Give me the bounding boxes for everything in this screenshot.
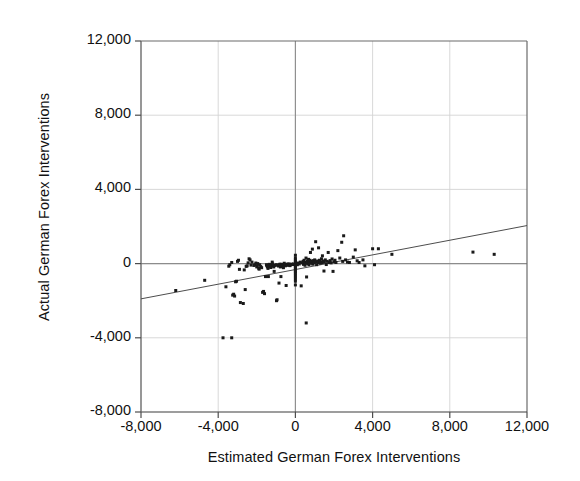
- scatter-point: [325, 263, 328, 266]
- scatter-point: [273, 270, 276, 273]
- scatter-point: [340, 241, 343, 244]
- scatter-point: [358, 261, 361, 264]
- scatter-point: [242, 302, 245, 305]
- scatter-point: [294, 254, 297, 257]
- scatter-point: [309, 251, 312, 254]
- scatter-point: [203, 279, 206, 282]
- scatter-point: [294, 283, 297, 286]
- scatter-point: [300, 284, 303, 287]
- scatter-point: [352, 256, 355, 259]
- scatter-point: [493, 253, 496, 256]
- scatter-point: [354, 248, 357, 251]
- scatter-point: [314, 240, 317, 243]
- y-tick-label: 4,000: [61, 179, 131, 195]
- scatter-point: [246, 264, 249, 267]
- scatter-point: [377, 247, 380, 250]
- scatter-point: [305, 275, 308, 278]
- scatter-point: [233, 295, 236, 298]
- scatter-point: [373, 263, 376, 266]
- scatter-point: [260, 266, 263, 269]
- scatter-point: [317, 246, 320, 249]
- scatter-point: [336, 249, 339, 252]
- scatter-point: [264, 275, 267, 278]
- scatter-point: [250, 264, 253, 267]
- y-tick-label: 0: [61, 254, 131, 270]
- y-axis-title: Actual German Forex Interventions: [36, 57, 52, 357]
- scatter-point: [363, 264, 366, 267]
- x-tick-label: 12,000: [482, 418, 572, 434]
- y-tick-label: 12,000: [61, 31, 131, 47]
- scatter-point: [244, 288, 247, 291]
- scatter-point: [390, 253, 393, 256]
- scatter-point: [332, 270, 335, 273]
- scatter-point: [331, 257, 334, 260]
- scatter-point: [338, 257, 341, 260]
- gridlines: [141, 41, 527, 412]
- scatter-point: [237, 259, 240, 262]
- y-tick-label: -4,000: [61, 328, 131, 344]
- scatter-point: [230, 261, 233, 264]
- scatter-point: [348, 261, 351, 264]
- scatter-point: [361, 258, 364, 261]
- scatter-point: [230, 336, 233, 339]
- scatter-point: [235, 280, 238, 283]
- scatter-point: [267, 275, 270, 278]
- scatter-point: [174, 289, 177, 292]
- scatter-point: [276, 298, 279, 301]
- scatter-plot-figure: Actual German Forex Interventions Estima…: [0, 0, 580, 481]
- scatter-point: [279, 275, 282, 278]
- scatter-point: [243, 268, 246, 271]
- scatter-point: [238, 268, 241, 271]
- x-axis-title: Estimated German Forex Interventions: [141, 449, 527, 465]
- scatter-point: [247, 261, 250, 264]
- scatter-point: [250, 261, 253, 264]
- scatter-point: [371, 247, 374, 250]
- scatter-point: [471, 251, 474, 254]
- scatter-point: [285, 284, 288, 287]
- scatter-point: [322, 270, 325, 273]
- scatter-point: [330, 261, 333, 264]
- scatter-point: [294, 280, 297, 283]
- scatter-point: [263, 292, 266, 295]
- scatter-point: [239, 301, 242, 304]
- y-tick-label: -8,000: [61, 402, 131, 418]
- scatter-point: [305, 321, 308, 324]
- scatter-point: [311, 248, 314, 251]
- y-tick-label: 8,000: [61, 105, 131, 121]
- axis-tick-marks: [135, 41, 527, 418]
- zero-axis-lines: [141, 41, 527, 412]
- scatter-point-group: [174, 234, 495, 339]
- scatter-point: [224, 285, 227, 288]
- scatter-point: [278, 282, 281, 285]
- scatter-point: [341, 260, 344, 263]
- scatter-point: [327, 251, 330, 254]
- scatter-point: [342, 234, 345, 237]
- scatter-point: [222, 336, 225, 339]
- scatter-point: [334, 261, 337, 264]
- plot-frame: [141, 41, 527, 412]
- scatter-point: [321, 254, 324, 257]
